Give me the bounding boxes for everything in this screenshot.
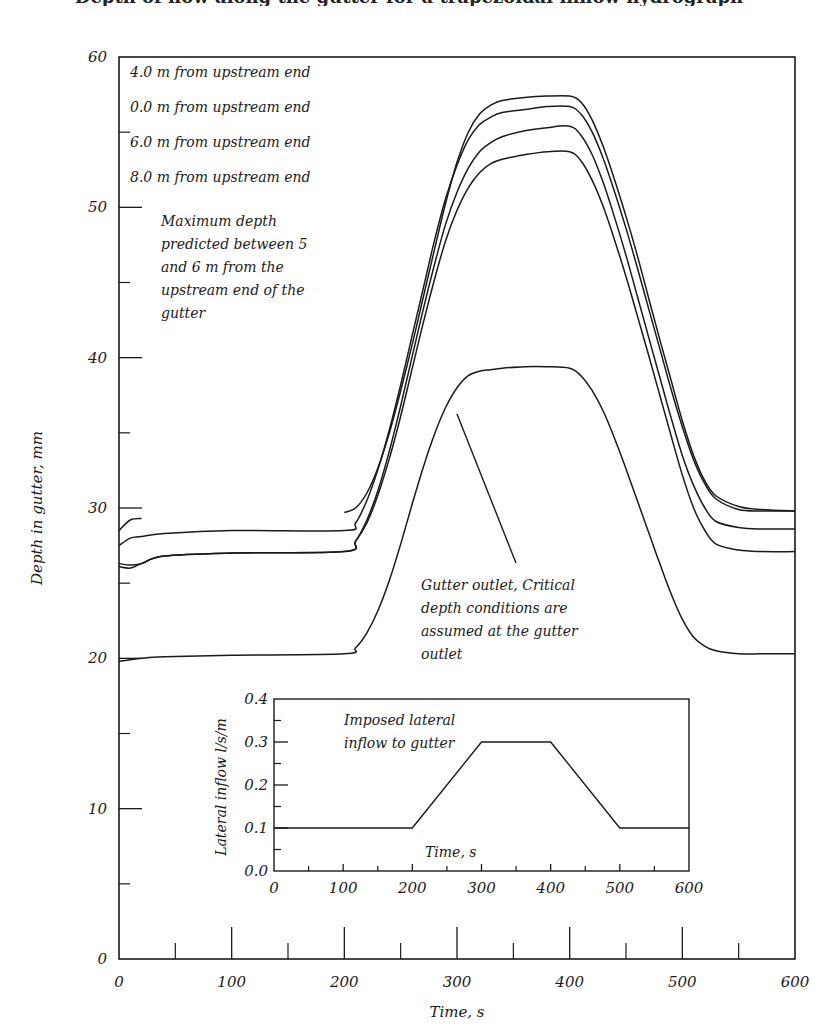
main-y-axis-ticks [119,132,142,884]
main-y-tick-labels: 0102030405060 [87,48,108,968]
y-tick-label: 0.2 [244,776,268,794]
y-tick-label: 0.4 [244,690,268,708]
main-x-axis-ticks [175,927,738,959]
y-tick-label: 0.3 [244,733,268,751]
x-tick-label: 600 [675,879,704,897]
x-tick-label: 200 [329,973,359,991]
x-tick-label: 500 [606,879,635,897]
legend-item-6m: 6.0 m from upstream end [130,134,311,150]
annotation-max-depth-line-2: predicted between 5 [161,236,307,252]
x-tick-label: 100 [217,973,246,991]
annotation-max-depth: Maximum depth predicted between 5 and 6 … [160,213,307,321]
main-plot: 0102030405060 0100200300400500600 Time, … [28,48,810,1021]
inset-x-tick-labels: 0100200300400500600 [269,879,704,897]
x-tick-label: 200 [397,879,427,897]
main-y-axis-title: Depth in gutter, mm [28,431,46,586]
inset-title-line-1: Imposed lateral [343,712,455,728]
main-x-axis-title: Time, s [429,1003,484,1021]
legend-item-0m: 0.0 m from upstream end [130,99,311,115]
inset-x-axis-title: Time, s [425,844,476,860]
legend: 4.0 m from upstream end 0.0 m from upstr… [129,64,311,185]
inset-plot-frame [274,699,689,871]
series-line-0 [119,519,142,531]
inset-y-axis-title: Lateral inflow l/s/m [213,718,229,857]
y-tick-label: 0.1 [244,819,268,837]
x-tick-label: 300 [467,879,496,897]
series-line-2 [119,126,795,565]
x-tick-label: 600 [781,973,810,991]
annotation-max-depth-line-1: Maximum depth [160,213,277,229]
inset-title-line-2: inflow to gutter [344,735,456,751]
x-tick-label: 400 [554,973,584,991]
inset-plot: 0.00.10.20.30.4 0100200300400500600 Impo… [213,690,704,897]
annotation-max-depth-line-4: upstream end of the [161,282,305,298]
y-tick-label: 60 [88,48,108,66]
legend-item-8m: 8.0 m from upstream end [130,169,311,185]
x-tick-label: 300 [443,973,472,991]
annotation-max-depth-line-5: gutter [161,305,207,321]
x-tick-label: 0 [269,879,279,897]
y-tick-label: 20 [87,649,108,667]
annotation-gutter-outlet: Gutter outlet, Critical depth conditions… [421,414,579,662]
series-line-4 [119,366,795,661]
y-tick-label: 50 [88,198,108,216]
x-tick-label: 100 [329,879,358,897]
main-x-tick-labels: 0100200300400500600 [114,973,810,991]
series-line-0 [344,96,795,513]
y-tick-label: 40 [87,349,108,367]
annotation-max-depth-line-3: and 6 m from the [161,259,284,275]
x-tick-label: 400 [535,879,565,897]
legend-item-4m: 4.0 m from upstream end [129,64,311,80]
depth-chart-figure: 0102030405060 0100200300400500600 Time, … [0,0,818,1028]
y-tick-label: 10 [88,800,108,818]
inset-y-tick-labels: 0.00.10.20.30.4 [244,690,268,880]
y-tick-label: 30 [88,499,108,517]
x-tick-label: 500 [668,973,697,991]
x-tick-label: 0 [114,973,124,991]
y-tick-label: 0 [97,950,107,968]
annotation-pointer-line [457,414,516,563]
annotation-outlet-line-2: depth conditions are [421,600,568,616]
annotation-outlet-line-3: assumed at the gutter [421,623,579,639]
y-tick-label: 0.0 [244,862,268,880]
annotation-outlet-line-4: outlet [421,646,463,662]
annotation-outlet-line-1: Gutter outlet, Critical [421,577,575,593]
